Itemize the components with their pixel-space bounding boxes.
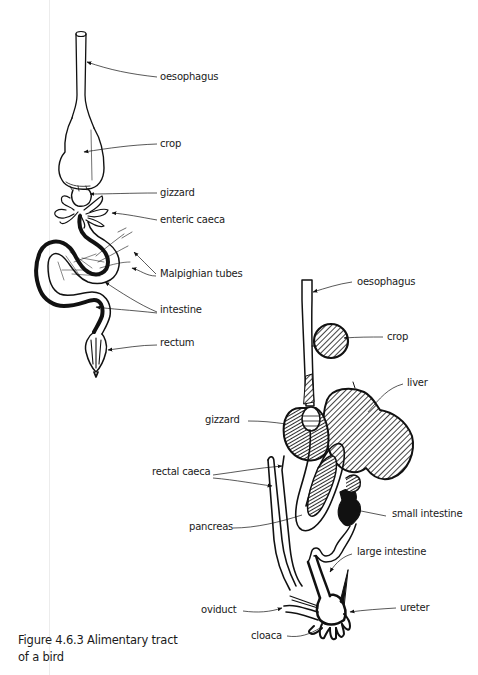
label-bird-liver: liver <box>407 377 428 389</box>
label-insect-crop: crop <box>160 138 181 150</box>
label-insect-oesophagus: oesophagus <box>160 71 218 83</box>
label-bird-small-intestine: small intestine <box>392 508 462 520</box>
label-bird-cloaca: cloaca <box>251 630 282 642</box>
label-bird-ureter: ureter <box>400 602 429 614</box>
insect-leader-lines <box>84 62 157 350</box>
insect-crop-shape <box>59 118 104 189</box>
label-insect-gizzard: gizzard <box>160 187 195 199</box>
label-bird-rectal-caeca: rectal caeca <box>152 466 211 478</box>
bird-oviduct-shape <box>284 596 318 620</box>
insect-oesophagus-shape <box>72 32 94 129</box>
figure-caption-line1: Figure 4.6.3 Alimentary tract <box>18 632 178 649</box>
bird-large-intestine-shape <box>308 556 348 625</box>
label-insect-enteric-caeca: enteric caeca <box>160 214 225 226</box>
label-bird-crop: crop <box>387 331 408 343</box>
insect-gizzard-shape <box>72 189 92 206</box>
insect-rectum-shape <box>85 332 106 377</box>
figure-caption-line2: of a bird <box>18 649 178 666</box>
label-bird-pancreas: pancreas <box>189 521 233 533</box>
label-insect-malpighian-tubes: Malpighian tubes <box>160 268 243 280</box>
bird-pancreas-shape <box>308 456 337 516</box>
insect-alimentary-tract <box>36 32 132 378</box>
label-insect-rectum: rectum <box>160 337 194 349</box>
label-bird-gizzard: gizzard <box>205 414 240 426</box>
figure-caption: Figure 4.6.3 Alimentary tract of a bird <box>18 632 178 666</box>
bird-crop-shape <box>314 324 348 358</box>
label-bird-large-intestine: large intestine <box>357 546 426 558</box>
label-bird-oesophagus: oesophagus <box>357 276 415 288</box>
label-bird-oviduct: oviduct <box>201 604 237 616</box>
insect-intestine-shape <box>36 216 119 334</box>
label-insect-intestine: intestine <box>160 304 202 316</box>
